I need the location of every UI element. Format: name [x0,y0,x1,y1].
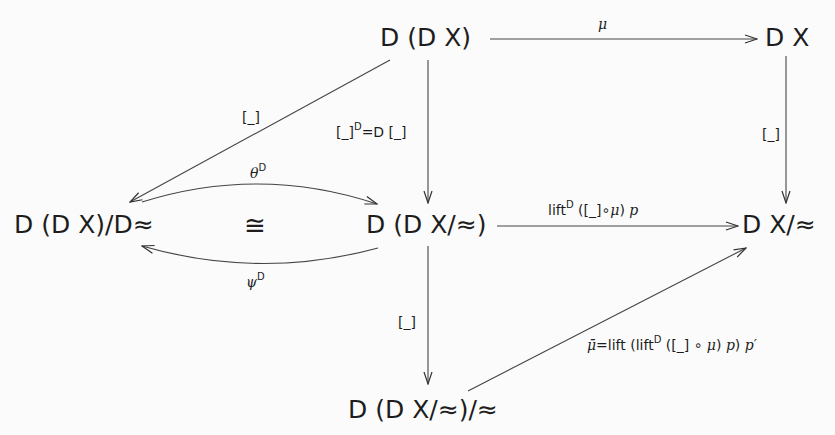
arrow-theta [142,184,377,204]
label-quot-bottom: [_] [398,315,416,329]
label-part: =lift (lift [596,337,654,353]
node-bottom: D (D X/≈)/≈ [348,397,498,422]
label-part: μ̄ [587,337,596,353]
label-part: ([_]∘ [574,202,611,218]
label-quot-top-left: [_] [242,110,260,124]
label-part: p [629,202,638,218]
label-part: p′ [745,337,757,353]
label-part: ([_] ∘ [661,337,707,353]
label-part: =D [_] [362,124,407,140]
label-mu: μ [598,17,607,31]
label-part: ) [619,202,629,218]
label-sup: D [354,121,362,132]
node-text: D X/≈ [742,210,816,239]
label-part: [_] [336,124,354,140]
label-mubar: μ̄=lift (liftD ([_] ∘ μ) p) p′ [587,335,757,352]
node-middle-left: D (D X)/D≈ [14,212,154,237]
node-top-middle: D (D X) [380,25,471,50]
label-part: ψ [246,274,257,290]
label-theta: θD [250,163,266,180]
node-text: D (D X)/D≈ [14,210,154,239]
node-middle-right: D X/≈ [742,212,816,237]
iso-symbol: ≅ [244,212,266,238]
node-text: D (D X/≈) [366,210,486,239]
label-part: ) [735,337,745,353]
label-part: μ [707,337,716,353]
label-quot-right: [_] [762,127,780,141]
label-sup: D [566,199,574,210]
node-top-right: D X [765,25,809,50]
arrow-mubar [468,248,746,391]
label-part: lift [548,202,566,218]
label-part: ) [716,337,726,353]
label-psi: ψD [246,272,265,289]
arrow-psi [142,246,378,264]
node-text: D (D X) [380,23,471,52]
label-quot-center: [_]D=D [_] [336,122,407,139]
node-text: D (D X/≈)/≈ [348,395,498,424]
label-part: p [726,337,735,353]
label-lift: liftD ([_]∘μ) p [548,200,638,217]
label-part: μ [610,202,619,218]
node-middle-center: D (D X/≈) [366,212,486,237]
node-text: D X [765,23,809,52]
label-sup: D [258,162,266,173]
label-sup: D [257,271,265,282]
